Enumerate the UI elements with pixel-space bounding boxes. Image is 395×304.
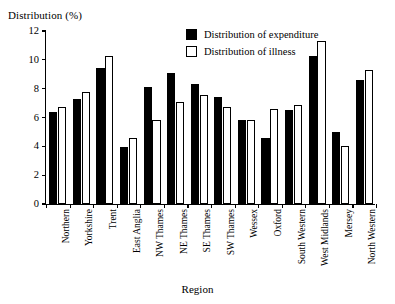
- bar-illness: [270, 109, 278, 204]
- x-axis-tick-mark: [117, 204, 118, 208]
- x-axis-category-label: Northern: [61, 209, 71, 243]
- x-axis-tick-mark: [164, 204, 165, 208]
- legend-swatch-expenditure-icon: [186, 29, 197, 40]
- bar-expenditure: [285, 110, 293, 204]
- bar-illness: [176, 102, 184, 204]
- x-axis-tick-mark: [305, 204, 306, 208]
- y-axis-tick-label: 8: [34, 82, 39, 95]
- x-axis-category-label: Yorkshire: [84, 209, 94, 246]
- bar-expenditure: [191, 84, 199, 204]
- bar-illness: [223, 107, 231, 204]
- bar-group: [352, 32, 376, 204]
- bar-expenditure: [356, 80, 364, 204]
- x-axis-tick-mark: [46, 204, 47, 208]
- x-axis-category-label: East Anglia: [132, 209, 142, 253]
- x-axis-tick-mark: [140, 204, 141, 208]
- x-axis-tick-mark: [211, 204, 212, 208]
- legend-swatch-illness-icon: [186, 46, 197, 57]
- bar-expenditure: [144, 87, 152, 204]
- x-axis-category-label: Trent: [108, 209, 118, 229]
- x-axis-category-label: West Midlands: [320, 209, 330, 266]
- bar-group: [164, 32, 188, 204]
- legend-item: Distribution of expenditure: [186, 26, 318, 43]
- bar-group: [93, 32, 117, 204]
- bar-illness: [341, 146, 349, 204]
- bar-expenditure: [120, 147, 128, 204]
- y-axis-tick-label: 10: [29, 53, 40, 66]
- bar-expenditure: [238, 120, 246, 204]
- bar-expenditure: [214, 97, 222, 204]
- legend-item-label: Distribution of illness: [204, 46, 296, 57]
- y-axis-title: Distribution (%): [8, 9, 82, 21]
- chart-legend: Distribution of expenditureDistribution …: [186, 26, 318, 60]
- bar-illness: [152, 120, 160, 204]
- x-axis-tick-mark: [187, 204, 188, 208]
- x-axis-category-label: NW Thames: [155, 209, 165, 257]
- x-axis-tick-mark: [376, 204, 377, 208]
- bar-illness: [317, 41, 325, 204]
- bar-group: [117, 32, 141, 204]
- x-axis-category-label: South Western: [297, 209, 307, 264]
- bar-group: [329, 32, 353, 204]
- x-axis-category-label: SE Thames: [202, 209, 212, 252]
- bar-expenditure: [167, 73, 175, 204]
- legend-item-label: Distribution of expenditure: [204, 29, 318, 40]
- x-axis-tick-mark: [282, 204, 283, 208]
- x-axis-tick-mark: [235, 204, 236, 208]
- bar-chart: Distribution (%) 024681012 NorthernYorks…: [0, 0, 395, 304]
- bar-illness: [247, 120, 255, 204]
- bar-illness: [82, 92, 90, 204]
- x-axis-tick-mark: [329, 204, 330, 208]
- y-axis-tick-label: 4: [34, 139, 39, 152]
- legend-item: Distribution of illness: [186, 43, 318, 60]
- bar-expenditure: [96, 68, 104, 204]
- y-axis-tick-label: 6: [34, 111, 39, 124]
- x-axis-tick-mark: [258, 204, 259, 208]
- bar-illness: [365, 70, 373, 204]
- bar-group: [140, 32, 164, 204]
- x-axis-category-label: NE Thames: [179, 209, 189, 254]
- bar-group: [70, 32, 94, 204]
- x-axis-category-label: Oxford: [273, 209, 283, 236]
- x-axis-category-label: North Western: [367, 209, 377, 264]
- bar-illness: [200, 95, 208, 204]
- x-axis-tick-mark: [70, 204, 71, 208]
- bar-group: [46, 32, 70, 204]
- x-axis-tick-mark: [352, 204, 353, 208]
- bar-expenditure: [261, 138, 269, 204]
- x-axis-category-label: Wessex: [249, 209, 259, 238]
- bar-expenditure: [49, 112, 57, 204]
- bar-illness: [294, 105, 302, 204]
- bar-illness: [129, 138, 137, 204]
- bar-illness: [58, 107, 66, 204]
- y-axis-tick-label: 12: [29, 24, 40, 37]
- y-axis-tick-label: 0: [34, 197, 39, 210]
- x-axis-title: Region: [0, 283, 395, 295]
- x-axis-tick-mark: [93, 204, 94, 208]
- x-axis-category-label: SW Thames: [226, 209, 236, 255]
- bar-expenditure: [332, 132, 340, 204]
- bar-expenditure: [309, 56, 317, 204]
- x-axis-category-label: Mersey: [344, 209, 354, 238]
- bar-expenditure: [73, 99, 81, 204]
- y-axis-tick-label: 2: [34, 168, 39, 181]
- bar-illness: [105, 56, 113, 204]
